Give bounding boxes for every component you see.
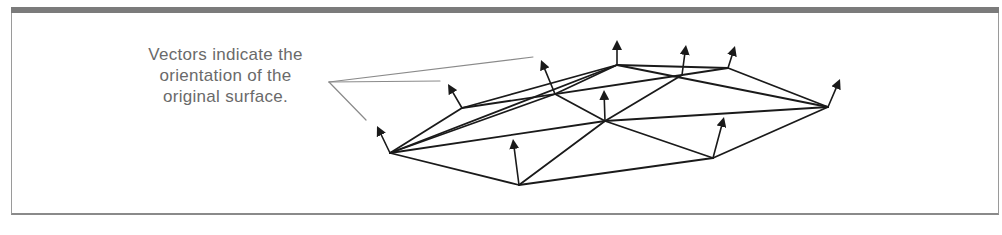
mesh-edge [462, 65, 617, 108]
normal-vector-arrow-icon [682, 50, 685, 75]
leader-line [329, 57, 533, 82]
mesh-edge [728, 68, 828, 107]
normal-vector-arrow-icon [514, 144, 519, 185]
normal-vector-arrow-icon [728, 51, 733, 68]
mesh-edge [605, 121, 713, 158]
normal-vector-arrow-icon [543, 65, 555, 94]
mesh-edges [390, 65, 828, 185]
mesh-edge [682, 68, 728, 75]
normal-vector-arrow-icon [604, 95, 605, 121]
mesh-edge [617, 65, 828, 107]
mesh-edge [605, 75, 682, 121]
mesh-edge [713, 107, 828, 158]
triangle-mesh-diagram [0, 0, 1002, 235]
normal-vectors [379, 45, 838, 185]
mesh-edge [605, 107, 828, 121]
mesh-edge [519, 158, 713, 185]
normal-vector-arrow-icon [828, 84, 838, 107]
leader-line [329, 81, 440, 82]
leader-line [329, 82, 366, 120]
normal-vector-arrow-icon [379, 131, 390, 153]
normal-vector-arrow-icon [713, 122, 723, 158]
normal-vector-arrow-icon [451, 88, 462, 108]
leader-lines [329, 57, 533, 120]
mesh-edge [390, 121, 605, 153]
mesh-edge [390, 153, 519, 185]
mesh-edge [555, 94, 605, 121]
